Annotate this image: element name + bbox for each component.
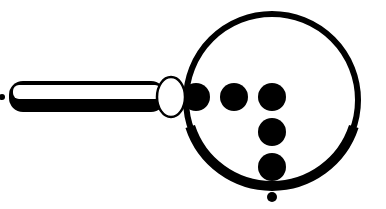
magnifier-dots-illustration (0, 0, 386, 209)
handle-highlight (13, 85, 161, 99)
small-dot (267, 192, 277, 202)
dot-group (182, 83, 286, 181)
dot (258, 153, 286, 181)
handle (9, 81, 165, 112)
left-tip-dot (0, 94, 5, 100)
dot (258, 83, 286, 111)
dot (258, 118, 286, 146)
dot (220, 83, 248, 111)
handle-collar (157, 77, 185, 117)
